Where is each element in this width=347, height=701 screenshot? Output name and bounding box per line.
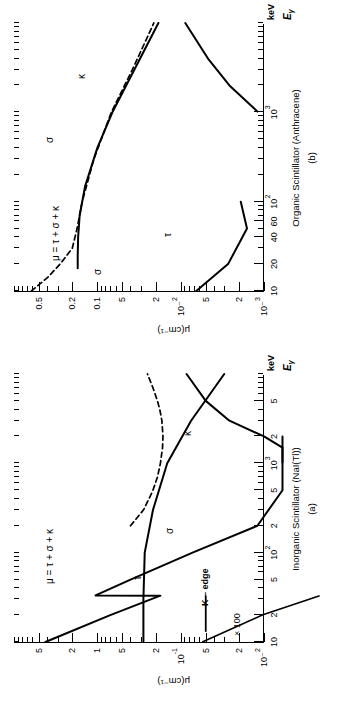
y-minor-tick — [47, 637, 48, 642]
x-minor-tick — [258, 215, 263, 216]
x-tick-label: 2 — [270, 613, 279, 618]
x-minor-tick — [258, 115, 263, 116]
x-minor-tick — [258, 387, 263, 388]
x-top-minor-tick — [14, 489, 19, 490]
y-minor-tick — [214, 637, 215, 642]
y-tick-label: 5 — [118, 297, 127, 325]
x-top-minor-tick — [14, 58, 19, 59]
x-minor-tick — [258, 22, 263, 23]
x-top-minor-tick — [14, 462, 19, 463]
y-minor-tick — [105, 286, 106, 291]
x-top-minor-tick — [14, 579, 19, 580]
x-top-minor-tick — [14, 377, 19, 378]
x-minor-tick — [258, 36, 263, 37]
panel-b-letter: (b) — [306, 24, 317, 292]
x-top-minor-tick — [14, 36, 19, 37]
kev-units-label-a: keV — [266, 355, 276, 371]
x-minor-tick — [258, 560, 263, 561]
tau-label-a: τ — [132, 576, 143, 580]
y-minor-tick — [141, 637, 142, 642]
curve-κ — [187, 374, 283, 462]
y-minor-tick — [194, 286, 195, 291]
y-minor-tick — [199, 286, 200, 291]
x-top-minor-tick — [14, 471, 19, 472]
x-top-minor-tick — [14, 236, 19, 237]
x-top-minor-tick — [14, 476, 19, 477]
curve-τ — [45, 436, 282, 642]
x-minor-tick — [258, 138, 263, 139]
y-major-tick — [206, 282, 207, 291]
x-tick-label: 102 — [270, 195, 279, 209]
x-major-tick — [254, 614, 263, 615]
x-top-minor-tick — [14, 201, 19, 202]
y-minor-tick — [110, 286, 111, 291]
x-minor-tick — [258, 587, 263, 588]
y-tick-label: 10⁻2 — [260, 648, 269, 676]
y-major-tick — [97, 282, 98, 291]
x-top-minor-tick — [14, 42, 19, 43]
x-top-minor-tick — [14, 393, 19, 394]
x-minor-tick — [258, 174, 263, 175]
y-minor-tick — [224, 286, 225, 291]
y-tick-label: 5 — [118, 648, 127, 676]
x-top-minor-tick — [14, 498, 19, 499]
x-top-minor-tick — [14, 22, 19, 23]
x-major-tick — [254, 263, 263, 264]
x-major-tick — [254, 579, 263, 580]
x-tick-label: 10 — [270, 637, 279, 647]
curve-μ — [131, 374, 163, 526]
x-major-tick — [254, 201, 263, 202]
x-top-minor-tick — [14, 111, 19, 112]
x-minor-tick — [258, 69, 263, 70]
y-tick-label: 5 — [35, 648, 44, 676]
x-tick-label: 5 — [270, 488, 279, 493]
y-tick-label: 10⁻3 — [260, 297, 269, 325]
y-major-tick — [72, 633, 73, 642]
x-top-minor-tick — [14, 614, 19, 615]
x-top-minor-tick — [14, 409, 19, 410]
x-minor-tick — [258, 158, 263, 159]
x-tick-label: 2 — [270, 523, 279, 528]
x-minor-tick — [258, 42, 263, 43]
x-tick-label: 5 — [270, 577, 279, 582]
k-edge-label-a: K – edge — [200, 568, 210, 606]
x-top-minor-tick — [14, 147, 19, 148]
y-tick-label: 2 — [151, 648, 160, 676]
x-minor-tick — [258, 498, 263, 499]
y-major-tick — [156, 633, 157, 642]
panel-inorganic-scintillator: μ = τ + σ + κ τ σ κ K – edge × 100 10251… — [0, 351, 347, 701]
x-top-minor-tick — [14, 205, 19, 206]
mu-sum-label-a: μ = τ + σ + κ — [44, 529, 55, 584]
x-major-tick — [254, 221, 263, 222]
x-top-minor-tick — [14, 221, 19, 222]
x-minor-tick — [258, 509, 263, 510]
y-major-tick — [239, 633, 240, 642]
x-top-minor-tick — [14, 174, 19, 175]
x-minor-tick — [258, 228, 263, 229]
y-major-tick — [206, 633, 207, 642]
x-top-minor-tick — [14, 466, 19, 467]
y-tick-label: 0.5 — [35, 297, 44, 325]
y-major-tick — [72, 282, 73, 291]
y-minor-tick — [58, 286, 59, 291]
x-minor-tick — [258, 131, 263, 132]
figure-canvas: μ = τ + σ + κ τ σ κ K – edge × 100 10251… — [0, 0, 347, 701]
x-top-minor-tick — [14, 138, 19, 139]
x-tick-label: 40 — [270, 232, 279, 242]
x-major-tick — [254, 552, 263, 553]
y-minor-tick — [199, 637, 200, 642]
x-minor-tick — [258, 205, 263, 206]
x-minor-tick — [258, 247, 263, 248]
x-tick-label: 103 — [270, 456, 279, 470]
x-top-minor-tick — [14, 598, 19, 599]
y-minor-tick — [27, 637, 28, 642]
x-top-minor-tick — [14, 382, 19, 383]
x-top-minor-tick — [14, 556, 19, 557]
x-tick-label: 102 — [270, 546, 279, 560]
x-top-minor-tick — [14, 560, 19, 561]
x-minor-tick — [258, 84, 263, 85]
y-minor-tick — [110, 637, 111, 642]
x-major-tick — [254, 435, 263, 436]
x-major-tick — [254, 525, 263, 526]
x-minor-tick — [258, 209, 263, 210]
